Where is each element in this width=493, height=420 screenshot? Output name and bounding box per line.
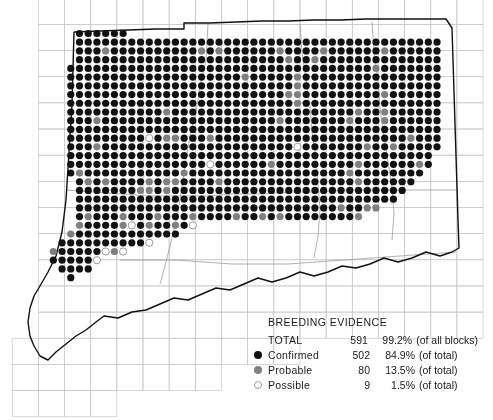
legend-label-total: TOTAL (268, 334, 339, 346)
legend-percent-total: 99.2% (368, 334, 412, 346)
legend-count-probable: 80 (340, 364, 370, 376)
legend-title: BREEDING EVIDENCE (268, 316, 478, 328)
map-legend: BREEDING EVIDENCE TOTAL 591 99.2% (of al… (248, 316, 478, 392)
legend-row-possible: Possible 9 1.5% (of total) (248, 377, 478, 392)
legend-swatch-probable (248, 366, 268, 374)
probable-dot-icon (254, 366, 262, 374)
possible-dot-icon (254, 381, 262, 389)
legend-swatch-confirmed (248, 351, 268, 359)
legend-note-confirmed: (of total) (415, 349, 458, 361)
legend-swatch-possible (248, 381, 268, 389)
confirmed-dot-icon (254, 351, 262, 359)
breeding-evidence-map: BREEDING EVIDENCE TOTAL 591 99.2% (of al… (0, 0, 493, 420)
legend-note-probable: (of total) (415, 364, 458, 376)
legend-row-confirmed: Confirmed 502 84.9% (of total) (248, 347, 478, 362)
legend-count-total: 591 (339, 334, 368, 346)
legend-label-probable: Probable (268, 364, 340, 376)
legend-label-confirmed: Confirmed (268, 349, 340, 361)
legend-row-probable: Probable 80 13.5% (of total) (248, 362, 478, 377)
legend-row-total: TOTAL 591 99.2% (of all blocks) (248, 332, 478, 347)
legend-percent-confirmed: 84.9% (370, 349, 415, 361)
legend-percent-probable: 13.5% (370, 364, 415, 376)
legend-count-confirmed: 502 (340, 349, 370, 361)
legend-label-possible: Possible (268, 379, 340, 391)
legend-note-possible: (of total) (415, 379, 458, 391)
legend-percent-possible: 1.5% (370, 379, 415, 391)
legend-count-possible: 9 (340, 379, 370, 391)
legend-note-total: (of all blocks) (412, 334, 478, 346)
